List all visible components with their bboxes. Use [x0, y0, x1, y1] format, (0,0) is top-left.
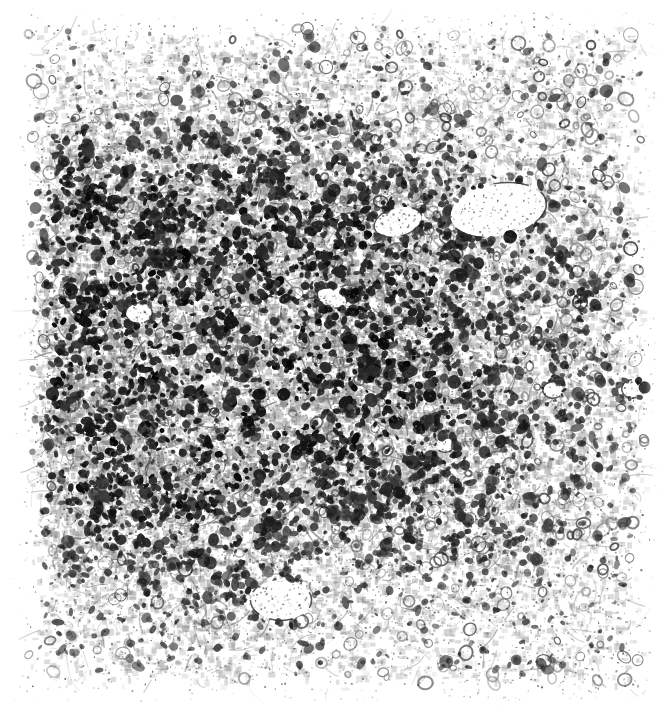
histology-micrograph-image [0, 0, 664, 710]
micrograph-figure [0, 0, 664, 710]
